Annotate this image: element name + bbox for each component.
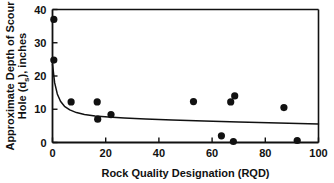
data-point-marker — [280, 104, 287, 111]
y-axis-title-line1: Approximate Depth of Scour — [4, 1, 16, 151]
data-point-marker — [230, 138, 237, 145]
data-point-marker — [50, 16, 57, 23]
y-tick-label: 10 — [34, 103, 46, 115]
x-tick-label: 80 — [259, 147, 271, 159]
data-point-marker — [227, 98, 234, 105]
data-point-marker — [190, 98, 197, 105]
data-point-marker — [107, 111, 114, 118]
chart-figure: 020406080100 010203040 Rock Quality Desi… — [0, 0, 334, 183]
x-tick-label: 0 — [49, 147, 55, 159]
data-point-marker — [231, 92, 238, 99]
y-tick-label: 30 — [34, 37, 46, 49]
data-point-marker — [50, 56, 57, 63]
x-axis-title: Rock Quality Designation (RQD) — [101, 167, 269, 179]
data-point-marker — [68, 98, 75, 105]
y-tick-label: 20 — [34, 70, 46, 82]
x-tick-label: 40 — [153, 147, 165, 159]
x-tick-label: 20 — [100, 147, 112, 159]
data-point-marker — [218, 132, 225, 139]
y-tick-label: 0 — [40, 137, 46, 149]
data-point-marker — [94, 98, 101, 105]
scour-depth-vs-rqd-scatter-chart: 020406080100 010203040 Rock Quality Desi… — [0, 0, 334, 183]
data-point-marker — [294, 137, 301, 144]
data-point-marker — [94, 116, 101, 123]
x-tick-label: 100 — [309, 147, 327, 159]
y-tick-label: 40 — [34, 4, 46, 16]
x-tick-label: 60 — [206, 147, 218, 159]
